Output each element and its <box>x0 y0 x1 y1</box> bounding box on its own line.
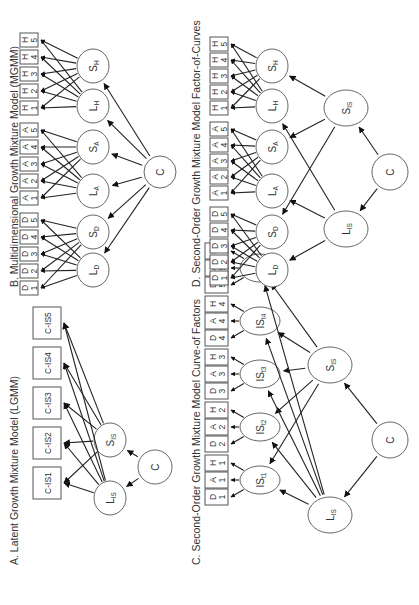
panel-b-mgmm: D1D2D3D4D5A1A2A3A4A5H1H2H3H4H5LDSDLASALH… <box>20 33 176 295</box>
path-arrow <box>345 456 377 496</box>
indicator-number: 3 <box>217 388 227 393</box>
path-arrow <box>41 181 76 188</box>
indicator-box-h4: H4 <box>20 50 39 64</box>
indicator-number: 4 <box>219 57 229 62</box>
indicator-box-a4: A4 <box>205 313 228 329</box>
indicator-number: 1 <box>217 477 227 482</box>
indicator-number: 4 <box>219 142 229 147</box>
path-arrow <box>41 107 76 108</box>
latent-node-s-d: SD <box>77 215 109 249</box>
indicator-number: 5 <box>29 127 39 132</box>
panel-a-lgmm: C-IS1C-IS2C-IS3C-IS4C-IS5LISSISC <box>33 307 172 515</box>
indicator-number: 2 <box>217 424 227 429</box>
indicator-box-a3: A3 <box>20 157 39 171</box>
indicator-box-h2: H2 <box>210 85 229 99</box>
indicator-box-a2: A2 <box>20 174 39 188</box>
indicator-box-d4: D4 <box>205 330 228 346</box>
indicator-box-a2: A2 <box>205 419 228 435</box>
indicator-label: C-IS1 <box>43 472 53 494</box>
indicator-box-c-is5: C-IS5 <box>33 307 61 339</box>
latent-node-l-is: LIS <box>94 481 126 515</box>
path-arrow <box>231 277 244 285</box>
indicator-box-a5: A5 <box>210 122 229 136</box>
panel-c-title: C. Second-Order Growth Mixture Model Cur… <box>190 299 202 565</box>
path-arrow <box>231 330 244 338</box>
path-arrow <box>231 383 244 391</box>
latent-node-l-h: LH <box>77 89 109 123</box>
latent-node-s-is: SIS <box>94 423 126 457</box>
indicator-label: C-IS3 <box>43 392 53 414</box>
indicator-number: 1 <box>29 105 39 110</box>
class-node-c: C <box>372 154 408 190</box>
path-arrow <box>64 452 97 483</box>
path-arrow <box>283 127 335 214</box>
path-arrow <box>231 192 255 193</box>
indicator-box-d2: D2 <box>20 264 39 278</box>
indicator-number: 3 <box>217 371 227 376</box>
first-order-node-l-d: LD <box>256 253 288 287</box>
indicator-number: 2 <box>217 407 227 412</box>
indicator-box-d4: D4 <box>210 223 229 237</box>
indicator-number: 1 <box>217 460 227 465</box>
path-arrow <box>41 220 80 258</box>
factor-label: C <box>385 436 396 443</box>
class-node-c: C <box>138 450 172 484</box>
indicator-box-d2: D2 <box>210 255 229 269</box>
figure-canvas: B. Multidimensional Growth Mixture Model… <box>0 0 419 605</box>
indicator-box-a3: A3 <box>210 154 229 168</box>
path-arrow <box>345 383 377 423</box>
indicator-box-d4: D4 <box>20 230 39 244</box>
indicator-label: C-IS2 <box>43 432 53 454</box>
path-arrow <box>64 363 104 481</box>
path-diagram-figure: B. Multidimensional Growth Mixture Model… <box>0 0 419 605</box>
indicator-box-a1: A1 <box>20 191 39 205</box>
indicator-number: 2 <box>217 441 227 446</box>
path-arrow <box>290 119 325 137</box>
path-arrow <box>41 40 78 58</box>
indicator-box-a4: A4 <box>20 140 39 154</box>
latent-node-l-a: LA <box>77 174 109 208</box>
indicator-box-h1: H1 <box>205 455 228 471</box>
path-arrow <box>108 120 147 158</box>
indicator-label: C-IS4 <box>43 352 53 374</box>
indicator-number: 5 <box>29 217 39 222</box>
path-arrow <box>231 107 255 108</box>
indicator-number: 3 <box>29 251 39 256</box>
indicator-box-h3: H3 <box>205 349 228 365</box>
path-arrow <box>231 436 244 444</box>
first-order-node-is-t3: ISt3 <box>240 360 280 388</box>
indicator-number: 3 <box>219 73 229 78</box>
path-arrow <box>41 220 76 228</box>
path-arrow <box>231 92 256 100</box>
indicator-number: 1 <box>217 494 227 499</box>
indicator-box-c-is3: C-IS3 <box>33 387 61 419</box>
indicator-number: 1 <box>219 190 229 195</box>
second-order-node-s-is: SIS <box>324 90 368 126</box>
indicator-label: C-IS5 <box>43 312 53 334</box>
path-arrow <box>290 76 326 96</box>
indicator-box-c-is2: C-IS2 <box>33 427 61 459</box>
indicator-number: 2 <box>219 259 229 264</box>
path-arrow <box>41 270 76 271</box>
second-order-node-l-is: LIS <box>308 497 352 533</box>
indicator-box-d2: D2 <box>205 436 228 452</box>
indicator-box-h3: H3 <box>210 69 229 83</box>
indicator-box-d5: D5 <box>210 207 229 221</box>
path-arrow <box>127 450 137 456</box>
second-order-node-s-is: SIS <box>308 347 352 383</box>
path-arrow <box>64 403 96 429</box>
path-arrow <box>231 463 244 471</box>
factor-label: C <box>385 168 396 175</box>
first-order-node-s-h: SH <box>256 49 288 83</box>
indicator-number: 1 <box>29 195 39 200</box>
indicator-box-h1: H1 <box>20 101 39 115</box>
indicator-number: 2 <box>29 268 39 273</box>
indicator-box-d1: D1 <box>20 281 39 295</box>
latent-node-s-a: SA <box>77 130 109 164</box>
indicator-box-h4: H4 <box>205 296 228 312</box>
path-arrow <box>231 44 257 58</box>
indicator-number: 2 <box>29 88 39 93</box>
indicator-number: 5 <box>29 37 39 42</box>
path-arrow <box>290 241 325 261</box>
indicator-box-c-is1: C-IS1 <box>33 467 61 499</box>
